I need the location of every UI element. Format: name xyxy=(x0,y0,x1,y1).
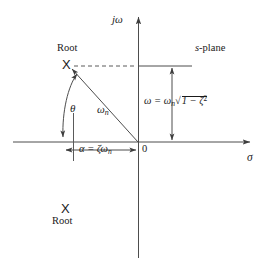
diagram-canvas xyxy=(0,0,269,266)
root-marker-upper: X xyxy=(62,58,71,71)
s-plane-label: s-plane xyxy=(195,43,225,54)
s-plane-suffix: -plane xyxy=(199,42,225,53)
origin-label: 0 xyxy=(142,144,147,155)
imaginary-axis-label: jω xyxy=(112,14,123,25)
radical-sign: √ xyxy=(175,95,181,106)
omega-n-symbol: ω xyxy=(97,103,105,115)
alpha-expression-lead: α = ζω xyxy=(79,143,108,154)
omega-n-subscript: n xyxy=(105,108,109,117)
theta-label: θ xyxy=(70,103,75,114)
radical-body-lead: 1 − ζ xyxy=(182,95,204,106)
s-plane-diagram: X X Root Root s-plane jω σ 0 θ ωn α = ζω… xyxy=(0,0,269,266)
alpha-expression: α = ζωn xyxy=(79,144,112,155)
radical-body: 1 − ζ2 xyxy=(181,95,208,106)
radical-overbar xyxy=(182,96,207,97)
radical-group: √1 − ζ2 xyxy=(175,95,207,107)
root-label-upper: Root xyxy=(57,43,77,54)
root-label-lower: Root xyxy=(52,216,72,227)
real-axis-label: σ xyxy=(247,152,253,164)
omega-expression: ω = ωn√1 − ζ2 xyxy=(144,95,207,108)
omega-expression-lead: ω = ω xyxy=(144,95,171,106)
alpha-expression-subscript: n xyxy=(108,147,112,156)
omega-n-label: ωn xyxy=(97,104,109,117)
root-marker-lower: X xyxy=(61,202,70,215)
